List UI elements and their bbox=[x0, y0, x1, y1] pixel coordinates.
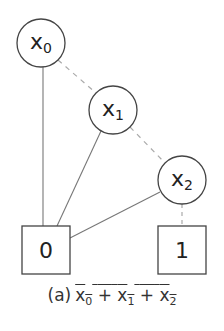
caption-op-plus: + bbox=[98, 285, 112, 305]
node-x1: x1 bbox=[89, 86, 137, 134]
caption-var-x2: x2 bbox=[159, 285, 176, 305]
terminal-0-label: 0 bbox=[39, 238, 53, 263]
terminal-1-label: 1 bbox=[175, 238, 189, 263]
edge-x1-0-solid bbox=[57, 131, 101, 226]
terminal-0: 0 bbox=[22, 226, 70, 274]
edge-x0-x1-dashed bbox=[58, 60, 96, 93]
node-x2: x2 bbox=[158, 156, 206, 204]
caption-expression: x0 + x1 + x2 bbox=[75, 285, 176, 305]
caption-prefix: (a) bbox=[48, 285, 72, 305]
terminal-1: 1 bbox=[158, 226, 206, 274]
caption-var-x0: x0 bbox=[75, 285, 92, 305]
figure-caption: (a)x0 + x1 + x2 bbox=[0, 285, 224, 308]
caption-op-plus: + bbox=[140, 285, 154, 305]
node-x0: x0 bbox=[17, 19, 65, 67]
bdd-diagram: x0 x1 x2 0 1 bbox=[0, 0, 224, 331]
caption-var-x1: x1 bbox=[117, 285, 134, 305]
edge-x1-x2-dashed bbox=[130, 127, 165, 163]
edge-x2-0-solid bbox=[70, 192, 160, 238]
